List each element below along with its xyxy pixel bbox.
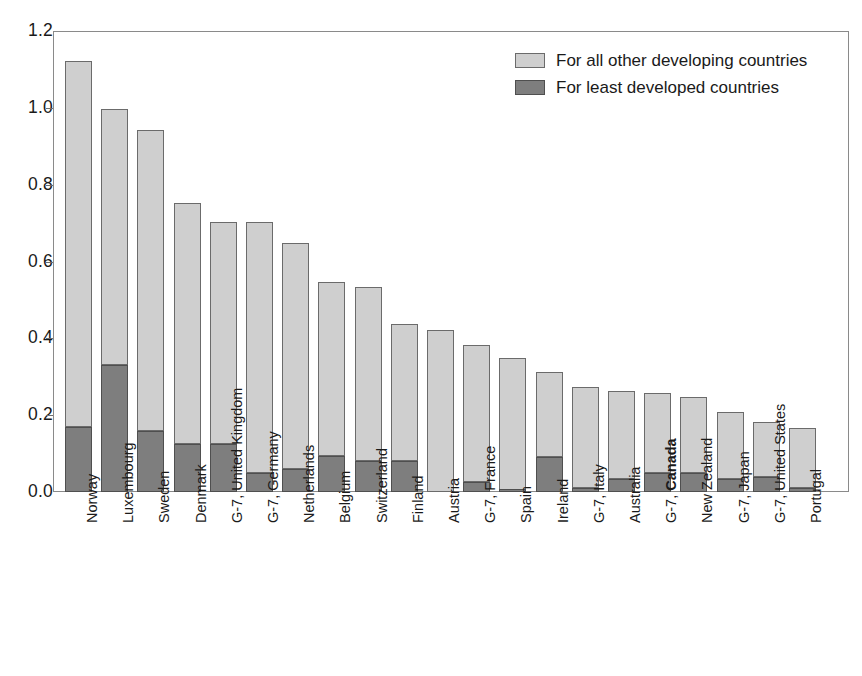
bar-segment-other-developing[interactable] (499, 358, 526, 490)
bar-column[interactable] (137, 31, 164, 492)
x-axis-label-text: Sweden (157, 471, 172, 523)
bar-column[interactable] (282, 31, 309, 492)
x-axis-label-text: G-7, Italy (592, 464, 607, 523)
bar-segment-other-developing[interactable] (137, 130, 164, 431)
x-axis-label: Luxembourg (101, 496, 116, 523)
legend-swatch-other (515, 53, 545, 68)
x-axis-labels: NorwayLuxembourgSwedenDenmarkG-7, United… (53, 496, 849, 676)
bar-column[interactable] (427, 31, 454, 492)
x-axis-label-text: Netherlands (302, 445, 317, 523)
x-axis-label: Belgium (318, 496, 333, 523)
legend-label: For all other developing countries (556, 52, 807, 69)
y-tick-mark (46, 108, 53, 109)
x-axis-label-text: Austria (447, 478, 462, 523)
bar-segment-other-developing[interactable] (391, 324, 418, 461)
x-axis-label: New Zealand (680, 496, 695, 523)
x-axis-label: G-7, United States (753, 496, 768, 523)
x-axis-label: G-7, Japan (717, 496, 732, 523)
bar-segment-other-developing[interactable] (608, 391, 635, 478)
x-axis-label: Finland (391, 496, 406, 523)
y-tick-mark (46, 338, 53, 339)
x-axis-label: Netherlands (282, 496, 297, 523)
x-axis-label-text: G-7, Japan (737, 451, 752, 523)
bar-segment-other-developing[interactable] (427, 330, 454, 492)
x-axis-label-text: Australia (628, 467, 643, 523)
bar-segment-other-developing[interactable] (355, 287, 382, 461)
y-tick-mark (46, 415, 53, 416)
x-axis-label-text: Norway (85, 474, 100, 523)
x-axis-label-text: G-7, United States (773, 404, 788, 523)
bar-segment-other-developing[interactable] (174, 203, 201, 444)
x-axis-label-text: G-7, Canada (664, 438, 679, 523)
x-axis-label: G-7, France (463, 496, 478, 523)
bar-column[interactable] (246, 31, 273, 492)
x-axis-label: Ireland (536, 496, 551, 523)
x-axis-label: G-7, Canada (644, 496, 659, 523)
x-axis-label-text: Denmark (194, 464, 209, 523)
x-axis-label: Norway (65, 496, 80, 523)
legend-swatch-least (515, 80, 545, 95)
x-axis-label-text: Portugal (809, 469, 824, 523)
legend-item[interactable]: For least developed countries (515, 75, 835, 99)
y-tick-mark (46, 262, 53, 263)
x-axis-label-text: Switzerland (375, 448, 390, 523)
bar-column[interactable] (65, 31, 92, 492)
x-axis-label: Australia (608, 496, 623, 523)
bar-column[interactable] (174, 31, 201, 492)
x-axis-label-text: Finland (411, 475, 426, 523)
bar-column[interactable] (463, 31, 490, 492)
bar-segment-other-developing[interactable] (536, 372, 563, 458)
y-tick-label: 1.2 (7, 22, 53, 40)
chart-container: 0.00.20.40.60.81.01.2 NorwayLuxembourgSw… (0, 0, 862, 676)
x-axis-label: Austria (427, 496, 442, 523)
bar-column[interactable] (355, 31, 382, 492)
x-axis-label: G-7, Germany (246, 496, 261, 523)
bar-segment-other-developing[interactable] (318, 282, 345, 456)
bar-column[interactable] (318, 31, 345, 492)
bar-column[interactable] (391, 31, 418, 492)
x-axis-label: G-7, United Kingdom (210, 496, 225, 523)
bar-column[interactable] (101, 31, 128, 492)
x-axis-label-text: Belgium (338, 471, 353, 523)
x-axis-label-text: G-7, United Kingdom (230, 388, 245, 523)
y-tick-mark (46, 185, 53, 186)
bar-segment-other-developing[interactable] (65, 61, 92, 427)
x-axis-label-text: G-7, France (483, 446, 498, 523)
x-axis-label: Portugal (789, 496, 804, 523)
chart-legend: For all other developing countriesFor le… (515, 48, 835, 102)
legend-item[interactable]: For all other developing countries (515, 48, 835, 72)
bar-segment-other-developing[interactable] (282, 243, 309, 469)
legend-label: For least developed countries (556, 79, 779, 96)
bar-segment-other-developing[interactable] (101, 109, 128, 365)
x-axis-label: Sweden (137, 496, 152, 523)
x-axis-label: G-7, Italy (572, 496, 587, 523)
x-axis-label-text: Luxembourg (121, 442, 136, 523)
x-axis-label: Denmark (174, 496, 189, 523)
x-axis-label-text: Spain (519, 486, 534, 523)
x-axis-label-text: G-7, Germany (266, 431, 281, 523)
x-axis-label-text: New Zealand (700, 438, 715, 523)
x-axis-label-text: Ireland (556, 479, 571, 523)
x-axis-label: Spain (499, 496, 514, 523)
y-tick-label: 0.0 (7, 483, 53, 501)
x-axis-label: Switzerland (355, 496, 370, 523)
